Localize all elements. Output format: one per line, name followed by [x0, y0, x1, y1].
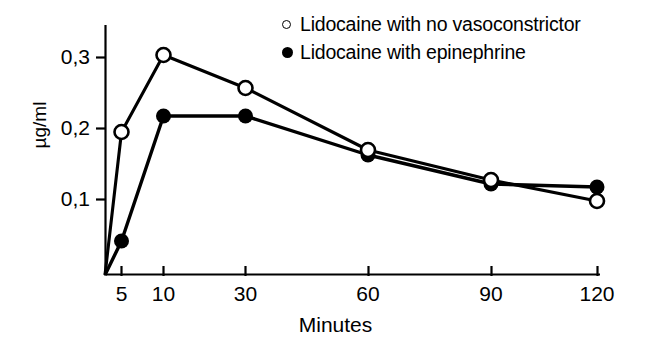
data-point-filled-30	[238, 109, 253, 124]
filled-circle-icon	[282, 47, 300, 58]
x-axis-label: Minutes	[0, 313, 671, 337]
data-point-filled-10	[156, 109, 171, 124]
data-point-filled-5	[114, 234, 129, 249]
legend-item-no-vasoconstrictor: Lidocaine with no vasoconstrictor	[282, 12, 581, 37]
open-circle-icon	[282, 20, 300, 29]
legend-label-no-vasoconstrictor: Lidocaine with no vasoconstrictor	[300, 15, 581, 35]
x-tick-label-60: 60	[341, 282, 395, 306]
data-point-open-60	[361, 143, 375, 157]
y-tick-label-1: 0,2	[36, 116, 90, 140]
y-tick-label-2: 0,1	[36, 187, 90, 211]
data-point-filled-120	[590, 180, 605, 195]
data-point-open-10	[157, 48, 171, 62]
legend-label-epinephrine: Lidocaine with epinephrine	[300, 43, 526, 63]
chart-legend: Lidocaine with no vasoconstrictor Lidoca…	[282, 12, 581, 65]
data-point-open-30	[239, 81, 253, 95]
series-line-no-vasoconstrictor	[105, 55, 597, 275]
data-point-open-90	[484, 173, 498, 187]
x-tick-label-120: 120	[570, 282, 624, 306]
chart-figure: µg/ml 0,3 0,2 0,1 5 10 30 60 90 120 Minu…	[0, 0, 671, 348]
legend-item-epinephrine: Lidocaine with epinephrine	[282, 40, 581, 65]
markers-epinephrine	[114, 109, 605, 249]
x-tick-label-10: 10	[137, 282, 191, 306]
y-tick-label-0: 0,3	[36, 45, 90, 69]
data-point-open-5	[115, 125, 129, 139]
data-point-open-120	[590, 194, 604, 208]
x-tick-label-90: 90	[464, 282, 518, 306]
x-tick-label-30: 30	[219, 282, 273, 306]
